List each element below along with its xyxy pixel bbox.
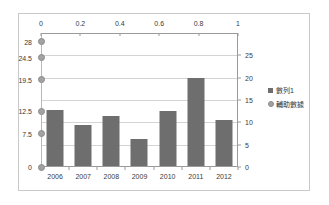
right-axis-tick-label: 10 bbox=[245, 119, 253, 126]
top-axis-tick-label: 0.2 bbox=[76, 20, 86, 27]
category-tick-label-2007: 2007 bbox=[75, 173, 91, 180]
category-tick-label-2010: 2010 bbox=[160, 173, 176, 180]
left-axis-tick-label: 0 bbox=[28, 164, 32, 171]
top-axis-tick-label: 0 bbox=[39, 20, 43, 27]
left-axis-tick-label: 12.5 bbox=[18, 108, 32, 115]
tick-mark bbox=[238, 167, 241, 168]
category-tick-label-2008: 2008 bbox=[104, 173, 120, 180]
legend-label-auxiliary: 輔助數據 bbox=[276, 101, 304, 108]
top-axis-tick-label: 1 bbox=[236, 20, 240, 27]
plot-area bbox=[41, 33, 238, 167]
category-tick-label-2009: 2009 bbox=[132, 173, 148, 180]
category-tick-label-2012: 2012 bbox=[216, 173, 232, 180]
left-axis-tick-label: 24.5 bbox=[18, 54, 32, 61]
legend-item-auxiliary[interactable]: 輔助數據 bbox=[268, 98, 324, 110]
left-axis-tick-label: 28 bbox=[24, 38, 32, 45]
scatter-marker[interactable] bbox=[38, 38, 45, 45]
tick-mark bbox=[80, 33, 81, 36]
tick-mark bbox=[41, 33, 42, 36]
tick-mark bbox=[238, 77, 241, 78]
tick-mark bbox=[159, 33, 160, 36]
top-axis-tick-label: 0.8 bbox=[194, 20, 204, 27]
tick-mark bbox=[181, 167, 182, 170]
right-axis-tick-label: 0 bbox=[245, 164, 249, 171]
tick-mark bbox=[69, 167, 70, 170]
tick-mark bbox=[209, 167, 210, 170]
tick-mark bbox=[238, 122, 241, 123]
tick-mark bbox=[198, 33, 199, 36]
tick-mark bbox=[238, 100, 241, 101]
tick-mark bbox=[238, 144, 241, 145]
chart-legend: 數列1 輔助數據 bbox=[268, 84, 324, 112]
top-axis-tick-label: 0.4 bbox=[115, 20, 125, 27]
scatter-marker[interactable] bbox=[38, 76, 45, 83]
right-axis-tick-label: 15 bbox=[245, 97, 253, 104]
left-axis-tick-label: 7.5 bbox=[22, 130, 32, 137]
legend-label-series1: 數列1 bbox=[276, 87, 294, 94]
tick-mark bbox=[238, 55, 241, 56]
scatter-series-auxiliary bbox=[41, 33, 238, 167]
scatter-marker[interactable] bbox=[38, 130, 45, 137]
category-tick-label-2006: 2006 bbox=[47, 173, 63, 180]
tick-mark bbox=[125, 167, 126, 170]
category-tick-label-2011: 2011 bbox=[188, 173, 203, 180]
tick-mark bbox=[238, 33, 239, 36]
scatter-marker[interactable] bbox=[38, 54, 45, 61]
top-axis-tick-label: 0.6 bbox=[154, 20, 164, 27]
bar-swatch-icon bbox=[268, 88, 273, 93]
right-axis-tick-label: 25 bbox=[245, 52, 253, 59]
left-axis-tick-label: 19.5 bbox=[18, 76, 32, 83]
right-axis-tick-label: 20 bbox=[245, 74, 253, 81]
circle-swatch-icon bbox=[268, 101, 274, 107]
scatter-marker[interactable] bbox=[38, 108, 45, 115]
tick-mark bbox=[41, 167, 42, 170]
tick-mark bbox=[153, 167, 154, 170]
tick-mark bbox=[97, 167, 98, 170]
chart-canvas: 00.20.40.60.81 07.512.519.524.528 051015… bbox=[0, 0, 329, 205]
tick-mark bbox=[119, 33, 120, 36]
legend-item-series1[interactable]: 數列1 bbox=[268, 84, 324, 96]
right-axis-tick-label: 5 bbox=[245, 141, 249, 148]
